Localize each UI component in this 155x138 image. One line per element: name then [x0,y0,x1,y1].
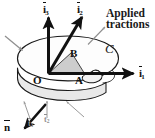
normal-label-n: n [4,120,10,133]
basis-label-i1-sub: 1 [141,73,144,81]
figure-root: i3 i2 i1 O A B C Applied tractions n t1 … [0,0,155,138]
traction-label-t2: t2 [44,114,49,124]
basis-label-i2-sub: 2 [79,9,82,17]
normal-label-n-text: n [4,120,10,133]
applied-tractions-label: Applied tractions [106,8,149,30]
curve-label-C: C [105,42,114,55]
traction-label-t2-sub: 2 [47,118,50,124]
traction-label-t1: t1 [28,118,33,128]
traction-label-t1-sub: 1 [31,122,34,128]
point-label-A: A [75,75,83,86]
basis-label-i1: i1 [139,66,145,79]
applied-tractions-line2: tractions [106,19,149,31]
basis-label-i3: i3 [43,2,49,15]
point-label-O: O [33,75,42,86]
basis-label-i2: i2 [77,2,83,15]
point-label-B: B [70,48,77,59]
basis-label-i3-sub: 3 [45,9,48,17]
